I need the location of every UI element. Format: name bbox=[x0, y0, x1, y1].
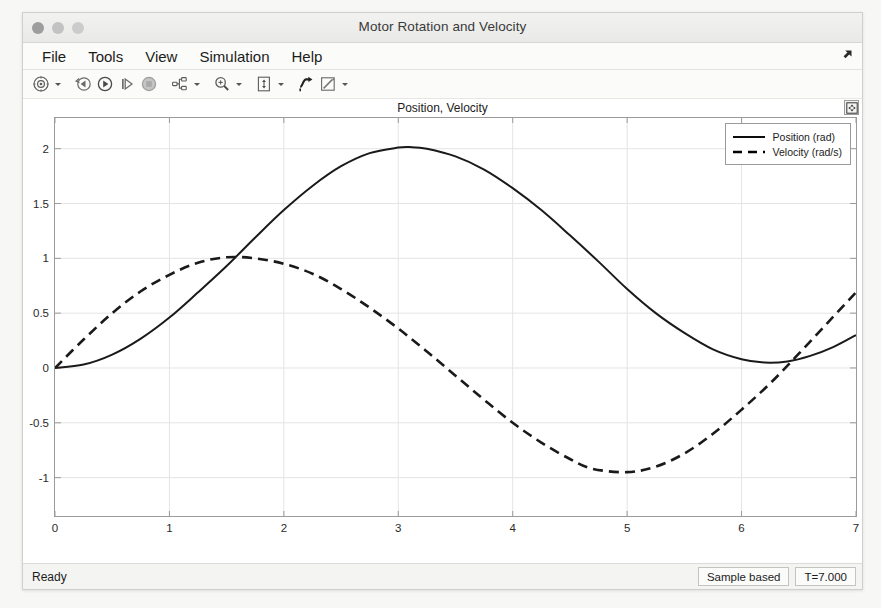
y-tick-label: 1.5 bbox=[23, 198, 49, 210]
y-tick-label: 0 bbox=[23, 362, 49, 374]
stop-icon[interactable] bbox=[138, 73, 160, 95]
y-tick-label: 1 bbox=[23, 252, 49, 264]
annotation-pencil-icon[interactable] bbox=[317, 73, 339, 95]
plot-area: Position, Velocity 21.510.50-0.5-1 01234… bbox=[23, 99, 862, 562]
title-bar: Motor Rotation and Velocity bbox=[23, 13, 862, 43]
zoom-in-icon[interactable] bbox=[211, 73, 233, 95]
undock-arrow-icon[interactable] bbox=[840, 48, 854, 62]
gear-circle-icon[interactable] bbox=[30, 73, 52, 95]
configuration-dropdown-arrow[interactable] bbox=[52, 73, 63, 95]
x-tick-label: 3 bbox=[395, 522, 401, 534]
tool-bar bbox=[23, 70, 862, 99]
series-line-0 bbox=[55, 147, 856, 368]
menu-item-tools[interactable]: Tools bbox=[77, 46, 134, 67]
legend-line-swatch bbox=[732, 147, 766, 157]
window-title: Motor Rotation and Velocity bbox=[23, 19, 862, 34]
x-tick-label: 6 bbox=[738, 522, 744, 534]
legend-label: Position (rad) bbox=[773, 131, 835, 143]
status-time: T=7.000 bbox=[795, 567, 856, 586]
x-tick-label: 7 bbox=[853, 522, 859, 534]
autoscale-icon[interactable] bbox=[253, 73, 275, 95]
series-line-1 bbox=[55, 257, 856, 472]
chart-canvas bbox=[55, 118, 856, 516]
step-forward-icon[interactable] bbox=[116, 73, 138, 95]
x-tick-label: 4 bbox=[510, 522, 516, 534]
legend-label: Velocity (rad/s) bbox=[773, 146, 842, 158]
play-icon[interactable] bbox=[94, 73, 116, 95]
y-tick-label: 0.5 bbox=[23, 307, 49, 319]
menu-item-help[interactable]: Help bbox=[281, 46, 334, 67]
rewind-icon[interactable] bbox=[72, 73, 94, 95]
legend-entry[interactable]: Position (rad) bbox=[732, 129, 842, 144]
status-sample-mode: Sample based bbox=[698, 567, 790, 586]
annotation-dropdown-arrow[interactable] bbox=[339, 73, 350, 95]
x-tick-label: 5 bbox=[624, 522, 630, 534]
y-tick-label: 2 bbox=[23, 143, 49, 155]
status-bar: Ready Sample based T=7.000 bbox=[23, 563, 862, 589]
legend-line-swatch bbox=[732, 132, 766, 142]
y-tick-label: -1 bbox=[23, 472, 49, 484]
menu-item-simulation[interactable]: Simulation bbox=[188, 46, 280, 67]
x-tick-label: 0 bbox=[52, 522, 58, 534]
x-tick-label: 2 bbox=[281, 522, 287, 534]
plot-title: Position, Velocity bbox=[23, 101, 862, 115]
dock-scope-icon[interactable] bbox=[844, 100, 859, 115]
chart-legend[interactable]: Position (rad)Velocity (rad/s) bbox=[725, 123, 851, 165]
cursor-measure-icon[interactable] bbox=[295, 73, 317, 95]
legend-entry[interactable]: Velocity (rad/s) bbox=[732, 144, 842, 159]
chart-axes[interactable] bbox=[54, 117, 857, 517]
menu-bar: File Tools View Simulation Help bbox=[23, 43, 862, 70]
status-message: Ready bbox=[23, 570, 698, 584]
zoom-dropdown-arrow[interactable] bbox=[233, 73, 244, 95]
signal-selector-icon[interactable] bbox=[169, 73, 191, 95]
scope-window: Motor Rotation and Velocity File Tools V… bbox=[22, 12, 863, 590]
y-tick-label: -0.5 bbox=[23, 417, 49, 429]
menu-item-view[interactable]: View bbox=[134, 46, 188, 67]
screenshot-root: Motor Rotation and Velocity File Tools V… bbox=[0, 0, 881, 608]
menu-item-file[interactable]: File bbox=[31, 46, 77, 67]
signal-selector-dropdown-arrow[interactable] bbox=[191, 73, 202, 95]
autoscale-dropdown-arrow[interactable] bbox=[275, 73, 286, 95]
x-tick-label: 1 bbox=[166, 522, 172, 534]
